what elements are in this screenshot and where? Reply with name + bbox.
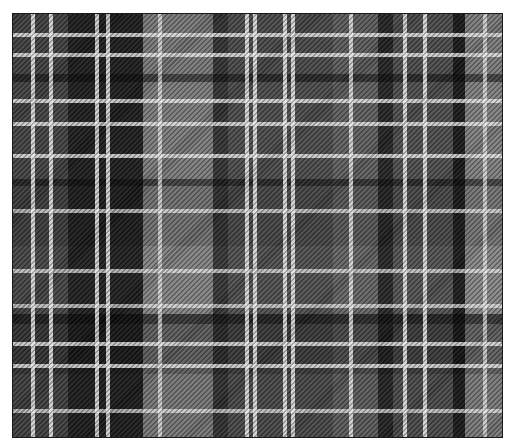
twill-texture xyxy=(13,14,502,437)
plaid-fabric-photo xyxy=(12,13,503,438)
